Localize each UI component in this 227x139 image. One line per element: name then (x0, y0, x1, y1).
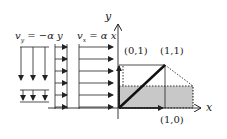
vy-rhs: = −α y (24, 30, 63, 41)
point-1-1-label: (1,1) (160, 46, 184, 56)
short-horizontal-arrows (55, 44, 67, 109)
vx-equation-label: vx = α x (77, 31, 116, 43)
point-1-0-label: (1,0) (160, 115, 184, 125)
y-axis-label: y (105, 11, 111, 22)
x-axis-label: x (206, 102, 212, 113)
vx-rhs: = α x (86, 30, 116, 41)
vx-field-arrows (79, 44, 113, 109)
velocity-field-diagram (0, 0, 227, 139)
dotted-deformation-line (165, 65, 193, 86)
point-0-1-label: (0,1) (124, 46, 148, 56)
vy-equation-label: vy = −α y (15, 31, 63, 43)
vy-field-arrows (20, 47, 49, 102)
